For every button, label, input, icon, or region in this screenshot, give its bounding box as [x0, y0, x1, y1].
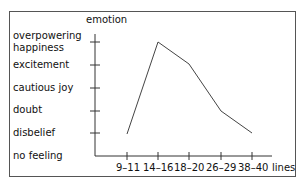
chart-plot: [0, 0, 305, 182]
data-line: [127, 42, 252, 134]
x-axis-title: lines: [272, 162, 295, 173]
x-tick-label-4: 26–29: [206, 162, 236, 173]
x-tick-label-3: 18–20: [174, 162, 204, 173]
x-tick-label-1: 9–11: [116, 162, 140, 173]
x-tick-label-2: 14–16: [143, 162, 173, 173]
x-tick-label-5: 38–40: [238, 162, 268, 173]
